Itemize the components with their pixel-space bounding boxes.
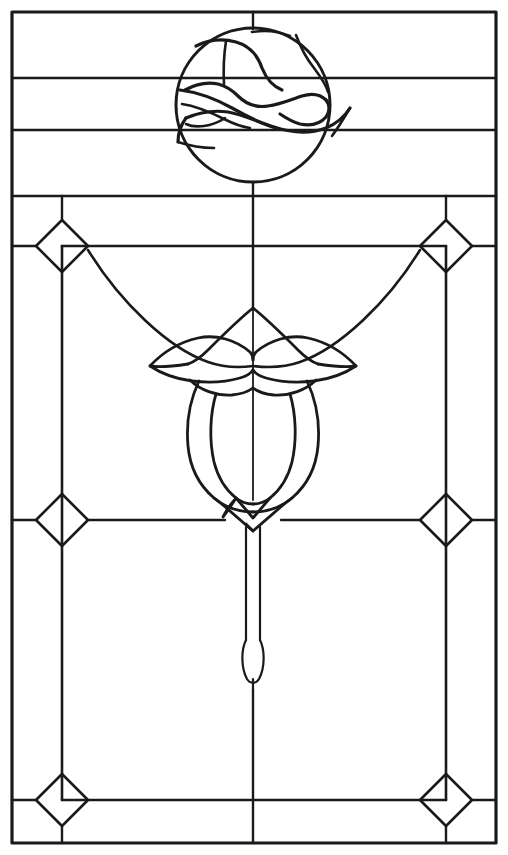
tulip-base-right-edge: [283, 498, 292, 505]
tulip-inner-petal-left: [150, 337, 253, 366]
tulip-stem: [242, 527, 263, 690]
tulip-bowl-left: [187, 381, 253, 512]
tulip-bowl-inner-right: [253, 394, 295, 504]
tulip-base-left-edge: [214, 498, 223, 505]
stem-bud: [242, 640, 263, 683]
main-panel: [12, 196, 496, 843]
tulip-top-petal-left: [188, 308, 253, 364]
tulip-bowl-inner-left: [211, 394, 253, 504]
artwork-canvas: Stained Glass Window Pattern — Dove and …: [0, 0, 508, 855]
dove-roundel: [176, 28, 350, 182]
stained-glass-pattern: [0, 0, 508, 855]
tulip-top-petal-right: [253, 308, 318, 364]
tulip-bowl-right: [253, 381, 319, 512]
upper-transom-panel: [12, 12, 496, 196]
